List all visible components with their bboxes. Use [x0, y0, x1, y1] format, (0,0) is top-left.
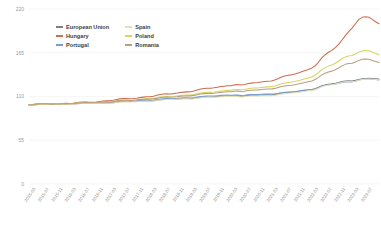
legend-item-label: Hungary: [66, 32, 89, 40]
x-axis-tick-label: 2016-03: [64, 186, 78, 203]
x-axis-tick-label: 2017-11: [131, 186, 144, 202]
x-axis-tick-label: 2019-03: [185, 186, 199, 203]
legend-item-label: Portugal: [66, 41, 89, 49]
x-axis-tick-label: 2021-11: [293, 186, 306, 202]
x-axis-tick-label: 2018-03: [144, 186, 158, 203]
x-axis-tick-label: 2017-07: [117, 186, 131, 203]
legend-item-portugal[interactable]: Portugal: [56, 41, 109, 49]
x-axis-tick-label: 2015-03: [23, 186, 37, 203]
y-axis-tick-label: 220: [16, 6, 25, 12]
series-line-portugal: [29, 79, 379, 105]
x-axis-tick-label: 2020-03: [225, 186, 239, 203]
legend-item-european-union[interactable]: European Union: [56, 23, 109, 31]
x-axis-tick-label: 2017-03: [104, 186, 118, 203]
x-axis-tick-label: 2015-07: [37, 186, 51, 203]
x-axis-tick-label: 2021-07: [279, 186, 293, 203]
x-axis-tick-label: 2021-03: [266, 186, 280, 203]
x-axis-tick-label: 2023-07: [360, 186, 374, 203]
x-axis-tick-label: 2016-07: [77, 186, 91, 203]
line-chart: 0551101652202015-032015-072015-112016-03…: [0, 0, 381, 230]
legend-swatch-icon: [56, 35, 63, 37]
x-axis-tick-label: 2020-07: [239, 186, 253, 203]
x-axis-tick-label: 2015-11: [50, 186, 63, 202]
legend-item-poland[interactable]: Poland: [125, 32, 159, 40]
x-axis-tick-label: 2016-11: [91, 186, 104, 202]
legend-swatch-icon: [56, 44, 63, 46]
chart-legend: European UnionHungaryPortugalSpainPoland…: [56, 23, 159, 49]
legend-item-label: Spain: [135, 23, 150, 31]
y-axis-tick-label: 55: [18, 137, 24, 143]
x-axis-tick-label: 2023-03: [346, 186, 360, 203]
legend-item-hungary[interactable]: Hungary: [56, 32, 109, 40]
legend-swatch-icon: [125, 44, 132, 46]
legend-swatch-icon: [125, 35, 132, 37]
x-axis-tick-label: 2018-07: [158, 186, 172, 203]
legend-item-label: Poland: [135, 32, 154, 40]
x-axis-tick-label: 2022-07: [319, 186, 333, 203]
legend-item-spain[interactable]: Spain: [125, 23, 159, 31]
legend-item-romania[interactable]: Romania: [125, 41, 159, 49]
x-axis-tick-label: 2019-11: [212, 186, 225, 202]
x-axis-tick-label: 2018-11: [171, 186, 184, 202]
legend-swatch-icon: [125, 26, 132, 28]
legend-swatch-icon: [56, 26, 63, 28]
y-axis-tick-label: 165: [16, 50, 25, 56]
series-line-european-union: [29, 78, 379, 105]
legend-item-label: European Union: [66, 23, 109, 31]
legend-item-label: Romania: [135, 41, 159, 49]
y-axis-tick-label: 0: [21, 181, 24, 187]
x-axis-tick-label: 2020-11: [252, 186, 265, 202]
x-axis-tick-label: 2022-03: [306, 186, 320, 203]
y-axis-tick-label: 110: [16, 93, 24, 99]
x-axis-tick-label: 2019-07: [198, 186, 212, 203]
x-axis-tick-label: 2022-11: [333, 186, 346, 202]
